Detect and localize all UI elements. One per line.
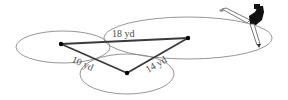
vertex-c — [186, 36, 190, 40]
vertex-b — [125, 71, 129, 75]
label-side-right: 14 yd — [144, 54, 169, 75]
label-side-top: 18 yd — [112, 28, 135, 39]
vertex-a — [59, 42, 63, 46]
side-left — [61, 44, 127, 73]
left-circle — [16, 31, 110, 63]
triangle-diagram: 18 yd 10 yd 14 yd — [0, 0, 288, 100]
